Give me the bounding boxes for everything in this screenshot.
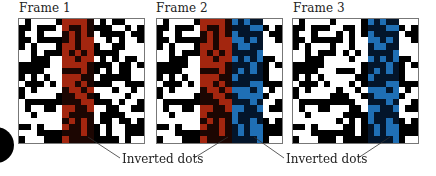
frame-3-canvas (293, 19, 418, 143)
frame-2-title: Frame 2 (156, 1, 208, 15)
black-circle-marker (0, 127, 14, 163)
frame-1-dot-grid (18, 18, 145, 144)
inverted-dots-label-2: Inverted dots (286, 152, 367, 166)
frame-3-title: Frame 3 (293, 1, 345, 15)
inverted-dots-label-1: Inverted dots (122, 152, 203, 166)
frame-1-title: Frame 1 (19, 1, 71, 15)
frame-2-dot-grid (156, 18, 283, 144)
frame-3-dot-grid (292, 18, 419, 144)
frame-1-canvas (19, 19, 144, 143)
frame-2-canvas (157, 19, 282, 143)
